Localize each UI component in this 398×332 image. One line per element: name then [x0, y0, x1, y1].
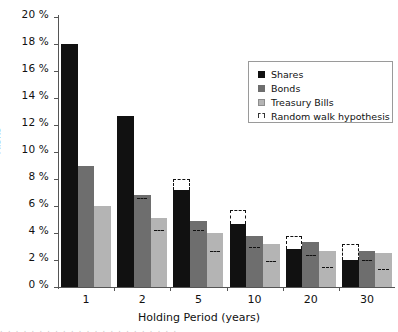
- random-walk-marker-treasury-bills-30: [378, 269, 388, 270]
- random-walk-marker-bonds-10: [249, 247, 259, 248]
- bar-shares-20: [286, 249, 303, 287]
- bar-treasury-bills-2: [151, 218, 168, 287]
- random-walk-marker-shares-30: [342, 244, 359, 260]
- x-axis-tick-label: 20: [291, 293, 331, 306]
- random-walk-marker-shares-10: [230, 210, 247, 224]
- x-axis-tick-label: 5: [178, 293, 218, 306]
- y-axis-tick-label: 10 %: [22, 144, 49, 155]
- random-walk-marker-bonds-20: [306, 255, 316, 256]
- legend-swatch-bonds-icon: [258, 85, 265, 92]
- legend-item-label: Shares: [271, 69, 303, 80]
- bar-bonds-30: [359, 251, 376, 287]
- legend-item-rw[interactable]: Random walk hypothesis: [258, 109, 390, 123]
- bar-bonds-1: [78, 166, 95, 288]
- legend-item-tbills[interactable]: Treasury Bills: [258, 95, 334, 109]
- y-axis-tick-label: 16 %: [22, 63, 49, 74]
- legend-swatch-rw-icon: [258, 113, 265, 118]
- x-axis-title: Holding Period (years): [0, 311, 398, 324]
- y-axis-tick-label: 18 %: [22, 36, 49, 47]
- legend-swatch-shares-icon: [258, 71, 265, 78]
- bar-shares-1: [61, 44, 78, 287]
- y-axis-tick-label: 14 %: [22, 90, 49, 101]
- y-axis-tick-label: 4 %: [28, 225, 49, 236]
- bar-treasury-bills-20: [319, 251, 336, 287]
- y-axis-tick-label: 2 %: [28, 252, 49, 263]
- random-walk-marker-shares-5: [173, 179, 190, 190]
- bar-shares-5: [173, 190, 190, 287]
- random-walk-marker-treasury-bills-10: [266, 261, 276, 262]
- x-axis-tick-label: 2: [122, 293, 162, 306]
- x-axis-tick-mark: [170, 287, 171, 291]
- bar-shares-2: [117, 116, 134, 287]
- random-walk-marker-bonds-5: [193, 230, 203, 231]
- random-walk-marker-treasury-bills-20: [322, 267, 332, 268]
- legend-item-label: Bonds: [271, 83, 300, 94]
- plot-area: [58, 17, 395, 287]
- x-axis-tick-mark: [227, 287, 228, 291]
- y-axis-title: Risks: [0, 127, 2, 154]
- legend-item-label: Treasury Bills: [271, 97, 334, 108]
- y-axis-tick-label: 20 %: [22, 9, 49, 20]
- x-axis-tick-label: 30: [347, 293, 387, 306]
- chart-legend: SharesBondsTreasury BillsRandom walk hyp…: [248, 61, 393, 123]
- bar-bonds-10: [246, 236, 263, 287]
- legend-item-label: Random walk hypothesis: [271, 111, 390, 122]
- bar-bonds-20: [302, 242, 319, 287]
- legend-item-bonds[interactable]: Bonds: [258, 81, 300, 95]
- bar-bonds-2: [134, 195, 151, 287]
- risk-by-holding-period-chart: 0 %2 %4 %6 %8 %10 %12 %14 %16 %18 %20 % …: [0, 0, 398, 332]
- bar-treasury-bills-5: [207, 233, 224, 287]
- x-axis-tick-label: 10: [235, 293, 275, 306]
- clipped-caption-text: . . . . . . . . . . . . . . . . . . . . …: [0, 325, 398, 332]
- group-separator: [226, 17, 228, 287]
- x-axis-tick-mark: [283, 287, 284, 291]
- random-walk-marker-bonds-30: [362, 260, 372, 261]
- y-axis-tick-label: 12 %: [22, 117, 49, 128]
- random-walk-marker-treasury-bills-5: [210, 251, 220, 252]
- bar-shares-30: [342, 260, 359, 287]
- x-axis-tick-mark: [114, 287, 115, 291]
- group-separator: [114, 17, 116, 287]
- random-walk-marker-shares-20: [286, 236, 303, 250]
- y-axis-tick-label: 8 %: [28, 171, 49, 182]
- random-walk-marker-treasury-bills-2: [154, 230, 164, 231]
- bar-treasury-bills-1: [94, 206, 111, 287]
- random-walk-marker-bonds-2: [137, 198, 147, 199]
- legend-swatch-tbills-icon: [258, 99, 265, 106]
- legend-item-shares[interactable]: Shares: [258, 67, 303, 81]
- x-axis-tick-mark: [339, 287, 340, 291]
- x-axis-tick-label: 1: [66, 293, 106, 306]
- bar-shares-10: [230, 224, 247, 287]
- bar-treasury-bills-10: [263, 244, 280, 287]
- group-separator: [338, 17, 340, 287]
- y-axis-tick-mark: [54, 287, 58, 288]
- y-axis-tick-label: 0 %: [28, 279, 49, 290]
- group-separator: [170, 17, 172, 287]
- group-separator: [282, 17, 284, 287]
- y-axis-tick-label: 6 %: [28, 198, 49, 209]
